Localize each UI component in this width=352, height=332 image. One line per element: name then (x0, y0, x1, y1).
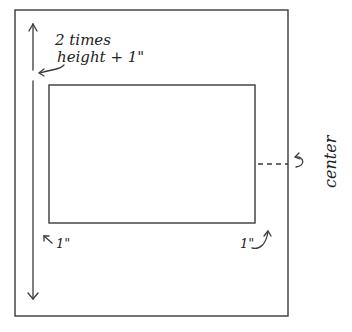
inner-window-rect (49, 85, 255, 223)
height-callout-arrow (39, 65, 64, 76)
right-margin-callout (252, 231, 271, 248)
mat-layout-diagram: 2 times height + 1" 1" 1" center (0, 0, 352, 332)
left-margin-label: 1" (56, 236, 70, 251)
center-callout (295, 153, 303, 167)
center-curl-arrowhead-icon (295, 153, 300, 159)
height-label-line2: height + 1" (57, 48, 144, 66)
center-label: center (321, 134, 340, 188)
height-label-line1: 2 times (54, 31, 111, 49)
left-margin-callout (44, 236, 52, 243)
outer-board-rect (15, 10, 288, 316)
vertical-dimension-arrow (28, 24, 38, 299)
left-margin-arrow-icon (44, 236, 52, 243)
right-margin-label: 1" (240, 236, 254, 251)
